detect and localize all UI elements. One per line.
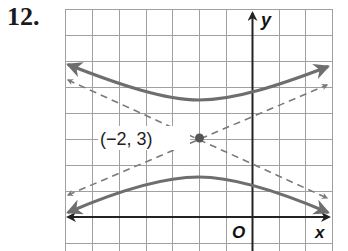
origin-label: O (232, 223, 245, 242)
upper-branch (69, 65, 327, 100)
hyperbola-graph: (−2, 3) y x O (0, 0, 348, 251)
center-point (195, 134, 204, 143)
x-axis-label: x (314, 223, 326, 242)
center-label: (−2, 3) (100, 129, 153, 149)
y-axis-label: y (260, 10, 272, 30)
lower-branch (69, 177, 327, 212)
